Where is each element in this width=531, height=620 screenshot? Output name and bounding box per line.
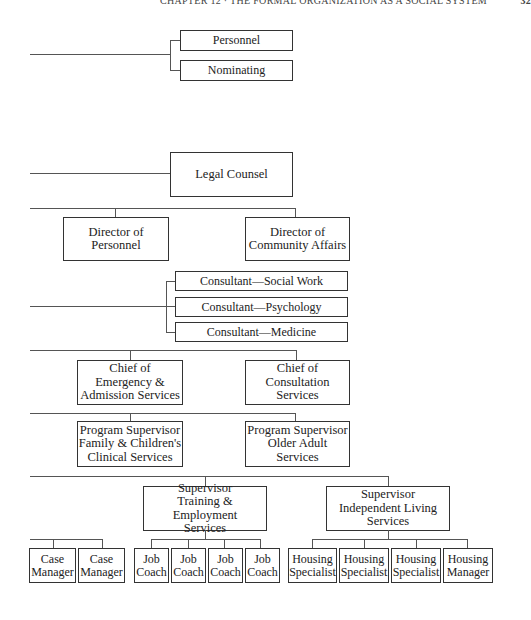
label-director-community-affairs: Director of Community Affairs: [249, 226, 346, 253]
connector-housing: [312, 539, 468, 540]
box-director-personnel: Director of Personnel: [63, 217, 169, 261]
label-job-coach: Job Coach: [136, 553, 167, 579]
label-job-coach: Job Coach: [210, 553, 241, 579]
label-legal-counsel: Legal Counsel: [195, 168, 268, 182]
page-number: 32: [520, 0, 531, 6]
label-program-supervisor-family-children: Program Supervisor Family & Children's C…: [79, 424, 181, 465]
label-housing-manager: Housing Manager: [447, 553, 490, 579]
box-consultant-medicine: Consultant—Medicine: [175, 322, 348, 342]
box-job-coach: Job Coach: [134, 548, 169, 583]
connector-legal-counsel: [30, 173, 171, 174]
box-nominating-committee: Nominating: [180, 60, 293, 81]
label-personnel-committee: Personnel: [213, 34, 260, 47]
box-chief-consultation: Chief of Consultation Services: [245, 360, 350, 405]
label-case-manager: Case Manager: [31, 553, 74, 579]
connector-personnel: [170, 40, 180, 41]
label-nominating-committee: Nominating: [208, 64, 265, 77]
connector-case-managers: [30, 539, 103, 540]
connector-chiefs: [30, 350, 297, 351]
box-supervisor-training-employment: Supervisor Training & Employment Service…: [143, 486, 267, 531]
connector-supervisors: [30, 476, 389, 477]
box-program-supervisor-family-children: Program Supervisor Family & Children's C…: [77, 421, 183, 467]
box-housing-manager: Housing Manager: [443, 548, 493, 583]
label-consultant-psychology: Consultant—Psychology: [201, 301, 321, 314]
box-director-community-affairs: Director of Community Affairs: [245, 217, 350, 261]
label-consultant-social-work: Consultant—Social Work: [200, 275, 323, 288]
box-case-manager: Case Manager: [29, 548, 76, 583]
box-personnel-committee: Personnel: [180, 30, 293, 51]
label-housing-specialist: Housing Specialist: [341, 553, 388, 579]
box-legal-counsel: Legal Counsel: [170, 152, 293, 197]
label-housing-specialist: Housing Specialist: [289, 553, 336, 579]
label-job-coach: Job Coach: [173, 553, 204, 579]
connector-nominating: [170, 70, 180, 71]
box-consultant-psychology: Consultant—Psychology: [175, 297, 348, 317]
box-housing-specialist: Housing Specialist: [391, 548, 441, 583]
connector-consultants-bracket: [166, 281, 167, 333]
running-title: CHAPTER 12 · THE FORMAL ORGANIZATION AS …: [160, 0, 487, 6]
box-job-coach: Job Coach: [245, 548, 280, 583]
box-housing-specialist: Housing Specialist: [339, 548, 389, 583]
box-case-manager: Case Manager: [78, 548, 125, 583]
box-program-supervisor-older-adult: Program Supervisor Older Adult Services: [245, 421, 350, 467]
label-chief-consultation: Chief of Consultation Services: [266, 362, 330, 403]
box-job-coach: Job Coach: [171, 548, 206, 583]
label-chief-emergency-admission: Chief of Emergency & Admission Services: [80, 362, 180, 403]
label-job-coach: Job Coach: [247, 553, 278, 579]
connector-program-supervisors: [30, 413, 296, 414]
box-supervisor-independent-living: Supervisor Independent Living Services: [326, 486, 450, 531]
label-supervisor-independent-living: Supervisor Independent Living Services: [339, 488, 437, 529]
connector-job-coaches: [151, 539, 261, 540]
label-housing-specialist: Housing Specialist: [393, 553, 440, 579]
connector-committees: [30, 54, 171, 55]
label-program-supervisor-older-adult: Program Supervisor Older Adult Services: [247, 424, 347, 465]
box-chief-emergency-admission: Chief of Emergency & Admission Services: [77, 360, 183, 405]
label-supervisor-training-employment: Supervisor Training & Employment Service…: [144, 482, 266, 536]
label-consultant-medicine: Consultant—Medicine: [207, 326, 316, 339]
running-header: CHAPTER 12 · THE FORMAL ORGANIZATION AS …: [160, 0, 527, 7]
box-consultant-social-work: Consultant—Social Work: [175, 271, 348, 291]
label-case-manager: Case Manager: [80, 553, 123, 579]
box-job-coach: Job Coach: [208, 548, 243, 583]
box-housing-specialist: Housing Specialist: [288, 548, 337, 583]
connector-committees-bracket: [170, 40, 171, 71]
connector-consultants: [30, 306, 176, 307]
label-director-personnel: Director of Personnel: [88, 226, 143, 253]
connector-directors: [30, 208, 296, 209]
